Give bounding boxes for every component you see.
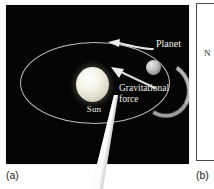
pointer-stick — [70, 95, 150, 189]
velocity-arrow-icon — [105, 38, 155, 52]
planet-label: Planet — [156, 38, 181, 49]
figure-container: Sun Planet Gravitational force — [0, 0, 214, 189]
gravitational-force-line-1: Gravitational — [119, 83, 189, 94]
caption-a: (a) — [6, 169, 19, 181]
panel-b-illustration: N — [196, 3, 214, 161]
panel-b-text: N — [204, 48, 211, 58]
caption-b: (b) — [196, 169, 209, 181]
